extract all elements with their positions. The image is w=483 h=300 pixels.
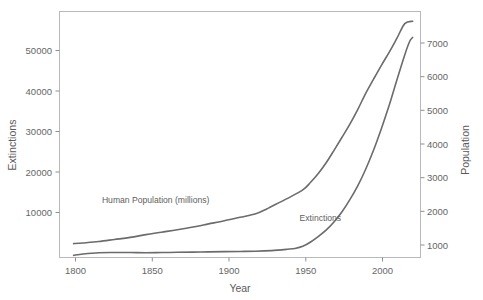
right-axis-tick-labels: 7000 6000 5000 4000 3000 2000 1000 bbox=[427, 38, 448, 251]
dual-axis-line-chart: 50000 40000 30000 20000 10000 Extinction… bbox=[0, 0, 483, 300]
left-tick-label: 30000 bbox=[26, 126, 52, 137]
right-tick-label: 1000 bbox=[427, 240, 448, 251]
right-tick-label: 5000 bbox=[427, 105, 448, 116]
series-line-human-population bbox=[74, 21, 413, 243]
right-tick-label: 4000 bbox=[427, 139, 448, 150]
right-tick-label: 3000 bbox=[427, 172, 448, 183]
x-tick-label: 1950 bbox=[295, 265, 316, 276]
right-axis-ticks bbox=[421, 43, 425, 245]
x-axis-ticks bbox=[76, 258, 383, 262]
right-tick-label: 6000 bbox=[427, 71, 448, 82]
left-axis-tick-labels: 50000 40000 30000 20000 10000 bbox=[26, 45, 52, 218]
series-annotation-extinctions: Extinctions bbox=[300, 213, 342, 223]
x-tick-label: 1800 bbox=[65, 265, 86, 276]
x-axis-title-year: Year bbox=[229, 282, 251, 294]
series-line-extinctions bbox=[74, 37, 413, 255]
series-annotation-human-population: Human Population (millions) bbox=[102, 195, 210, 205]
left-tick-label: 40000 bbox=[26, 86, 52, 97]
x-tick-label: 1850 bbox=[142, 265, 163, 276]
x-tick-label: 1900 bbox=[218, 265, 239, 276]
y-axis-title-extinctions: Extinctions bbox=[6, 120, 18, 171]
y-axis-title-population: Population bbox=[459, 125, 471, 175]
left-tick-label: 50000 bbox=[26, 45, 52, 56]
x-tick-label: 2000 bbox=[372, 265, 393, 276]
right-tick-label: 7000 bbox=[427, 38, 448, 49]
left-tick-label: 20000 bbox=[26, 167, 52, 178]
x-axis-tick-labels: 1800 1850 1900 1950 2000 bbox=[65, 265, 393, 276]
right-tick-label: 2000 bbox=[427, 206, 448, 217]
chart-figure: 50000 40000 30000 20000 10000 Extinction… bbox=[0, 0, 483, 300]
plot-frame bbox=[60, 12, 421, 258]
left-axis-ticks bbox=[56, 51, 60, 213]
left-tick-label: 10000 bbox=[26, 207, 52, 218]
